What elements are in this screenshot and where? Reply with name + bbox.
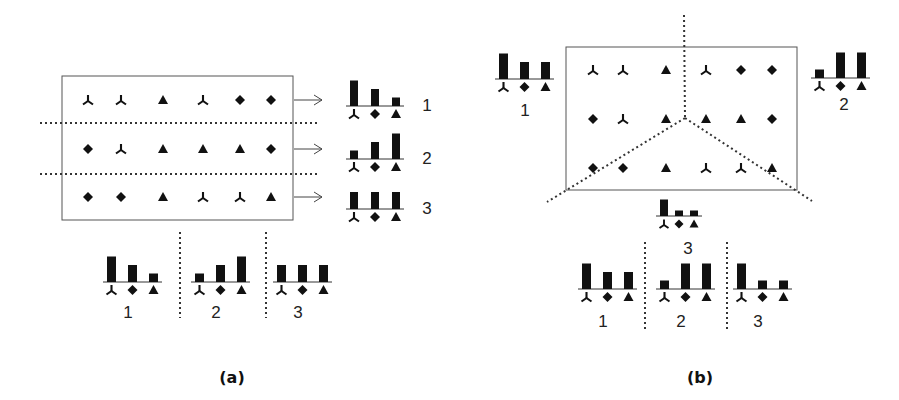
arrow-icon <box>294 95 322 105</box>
diamond-icon <box>767 65 777 75</box>
triangle-icon <box>702 292 712 301</box>
triangle-icon <box>661 163 671 172</box>
triangle-icon <box>319 285 329 294</box>
diamond-icon <box>603 292 613 302</box>
triangle-icon <box>541 82 551 91</box>
triangle-icon <box>690 220 699 228</box>
triangle-icon <box>391 109 401 118</box>
histogram <box>346 134 404 173</box>
histogram <box>103 257 162 296</box>
histogram-bar <box>371 89 379 106</box>
caption-b: (b) <box>687 368 713 387</box>
tri-y-icon <box>107 285 117 295</box>
tri-y-icon <box>349 109 359 119</box>
histogram <box>656 200 702 229</box>
diagram-canvas: 123 123 (a) 123 123 (b) <box>0 0 899 400</box>
histogram-bar <box>350 81 358 107</box>
tri-y-icon <box>660 292 670 302</box>
histogram-bar <box>702 264 711 290</box>
diamond-icon <box>588 163 598 173</box>
group-label: 2 <box>211 303 220 322</box>
histogram <box>273 265 332 295</box>
tri-y-icon <box>277 285 287 295</box>
diamond-icon <box>83 144 93 154</box>
histogram-bar <box>350 151 358 160</box>
histogram <box>495 54 554 93</box>
histogram-bar <box>371 142 379 159</box>
diamond-icon <box>370 109 380 119</box>
histogram-bar <box>499 54 508 80</box>
tri-y-icon <box>737 292 747 302</box>
histogram <box>346 192 404 222</box>
diamond-icon <box>681 292 691 302</box>
triangle-icon <box>767 163 777 172</box>
histogram-bar <box>237 257 246 283</box>
histogram-bar <box>541 62 550 79</box>
triangle-icon <box>857 81 867 90</box>
region-divider-vertical <box>684 15 685 118</box>
diamond-icon <box>266 144 276 154</box>
tri-y-icon <box>116 95 126 105</box>
diamond-icon <box>836 81 846 91</box>
histogram <box>346 81 404 120</box>
triangle-icon <box>158 95 168 104</box>
diamond-icon <box>520 82 530 92</box>
histogram-bar <box>216 265 225 282</box>
tri-y-icon <box>349 212 359 222</box>
region-histogram-label: 3 <box>683 239 692 258</box>
triangle-icon <box>661 65 671 74</box>
tri-y-icon <box>198 192 208 202</box>
diamond-icon <box>266 95 276 105</box>
tri-y-icon <box>116 144 126 154</box>
histogram-bar <box>298 265 307 282</box>
row-histogram-label: 2 <box>422 149 431 168</box>
diamond-icon <box>736 65 746 75</box>
group-label: 2 <box>676 312 685 331</box>
histogram-bar <box>520 62 529 79</box>
histogram-bar <box>836 53 845 79</box>
triangle-icon <box>235 144 245 153</box>
histogram-bar <box>582 264 591 290</box>
histogram-bar <box>660 200 668 217</box>
group-label: 3 <box>293 303 302 322</box>
tri-y-icon <box>582 292 592 302</box>
histogram-bar <box>128 265 137 282</box>
tri-y-icon <box>660 220 669 229</box>
row-arrows <box>294 95 322 202</box>
tri-y-icon <box>83 95 93 105</box>
histogram-bar <box>681 264 690 290</box>
tri-y-icon <box>815 81 825 91</box>
tri-y-icon <box>235 192 245 202</box>
histogram-bar <box>815 70 824 79</box>
diamond-icon <box>116 192 126 202</box>
feature-grid-b <box>588 65 777 173</box>
arrow-icon <box>294 144 322 154</box>
histogram <box>578 264 637 303</box>
histogram <box>733 264 792 303</box>
region-divider-left <box>547 118 685 202</box>
histogram-bar <box>195 274 204 283</box>
diamond-icon <box>370 162 380 172</box>
diamond-icon <box>370 212 380 222</box>
triangle-icon <box>701 114 711 123</box>
tri-y-icon <box>198 95 208 105</box>
histogram-bar <box>392 98 400 107</box>
tri-y-icon <box>588 65 598 75</box>
histogram-bar <box>319 265 328 282</box>
triangle-icon <box>237 285 247 294</box>
histogram-bar <box>350 192 358 209</box>
caption-a: (a) <box>219 368 244 387</box>
region-divider-right <box>685 118 812 201</box>
triangle-icon <box>391 212 401 221</box>
triangle-icon <box>266 192 276 201</box>
histogram-bar <box>857 53 866 79</box>
histogram-bar <box>660 281 669 290</box>
feature-grid-a <box>83 95 276 202</box>
tri-y-icon <box>701 65 711 75</box>
diamond-icon <box>675 220 684 229</box>
histogram <box>191 257 250 296</box>
region-histograms: 123 <box>495 53 870 259</box>
group-label: 1 <box>598 312 607 331</box>
histogram-bar <box>737 264 746 290</box>
histogram-bar <box>277 265 286 282</box>
